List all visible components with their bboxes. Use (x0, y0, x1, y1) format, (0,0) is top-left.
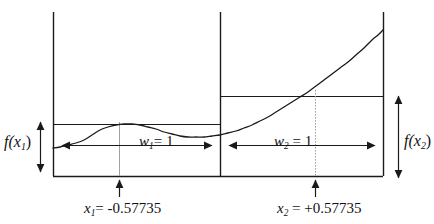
fx1-label: f(x1) (4, 134, 31, 150)
w2-label: w2 = 1 (274, 134, 312, 149)
fx2-label: f(x2) (404, 133, 431, 149)
figure-canvas (0, 0, 434, 224)
x1-value-label: x1= -0.57735 (84, 201, 161, 216)
integrand-curve (53, 30, 383, 148)
gauss-quadrature-figure: f(x1) f(x2) w1= 1 w2 = 1 x1= -0.57735 x2… (0, 0, 434, 224)
x2-value-label: x2 = +0.57735 (277, 201, 362, 216)
w1-label: w1= 1 (139, 134, 173, 149)
